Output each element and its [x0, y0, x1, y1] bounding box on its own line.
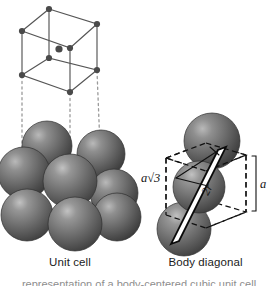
label-a-root3: a√3 [141, 171, 160, 185]
unit-cell-sphere-cluster [0, 121, 141, 251]
figure-stage: a√3 2r a Unit cell Body diagonal © 2013 … [0, 0, 278, 286]
lattice-node-back-top-right [94, 21, 100, 27]
figure-graphics: a√3 2r a [0, 0, 278, 286]
bottom-caption-partial: representation of a body-centered cubic … [0, 279, 278, 286]
lattice-back-face [49, 9, 97, 70]
sphere-front-left [1, 189, 53, 241]
lattice-edge-bottom-right [70, 70, 97, 92]
lattice-node-back-bottom-left [46, 55, 52, 61]
bracket-a [252, 156, 256, 211]
caption-unit-cell: Unit cell [0, 256, 140, 268]
body-diagonal-sphere-stack [157, 113, 240, 256]
edge-length-bracket [252, 156, 256, 211]
lattice-node-front-top-right [67, 45, 73, 51]
lattice-node-body-center [55, 45, 62, 52]
lattice-edge-top-right [70, 24, 97, 48]
lattice-node-front-bottom-left [19, 72, 25, 78]
caption-body-diagonal: Body diagonal [148, 256, 263, 268]
label-a-edge: a [260, 177, 266, 191]
lattice-node-front-bottom-right [67, 89, 73, 95]
sphere-front-center [48, 197, 102, 251]
lattice-edge-top-left [22, 9, 49, 31]
lattice-edge-bottom-left [22, 58, 49, 75]
bcc-unit-cell-figure: a√3 2r a Unit cell Body diagonal © 2013 … [0, 0, 278, 286]
lattice-node-back-bottom-right [94, 67, 100, 73]
lattice-node-back-top-left [46, 6, 52, 12]
lattice-node-front-top-left [19, 28, 25, 34]
lattice-nodes [19, 6, 100, 95]
